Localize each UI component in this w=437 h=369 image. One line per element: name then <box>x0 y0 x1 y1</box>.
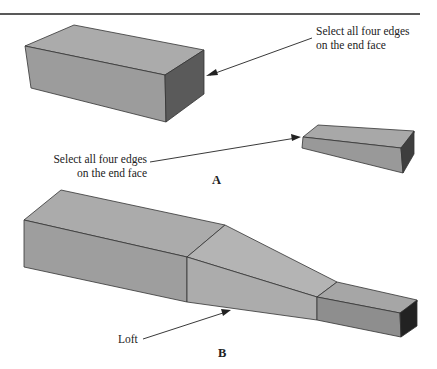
callout-small-box-line2: on the end face <box>20 166 147 180</box>
small-box <box>302 125 414 173</box>
callout-large-box-line1: Select all four edges <box>316 24 410 38</box>
callout-large-box-line2: on the end face <box>316 38 410 52</box>
callout-arrow-small-box <box>150 134 301 162</box>
figure-label-b: B <box>218 346 226 361</box>
lofted-body <box>24 190 417 337</box>
callout-loft-text: Loft <box>118 332 138 346</box>
figure-label-a: A <box>212 173 221 188</box>
callout-small-box-text: Select all four edges on the end face <box>20 152 147 180</box>
callout-arrow-large-box <box>206 38 312 76</box>
callout-small-box-line1: Select all four edges <box>20 152 147 166</box>
callout-large-box-text: Select all four edges on the end face <box>316 24 410 52</box>
callout-arrow-loft <box>143 309 231 339</box>
large-box <box>25 25 204 122</box>
